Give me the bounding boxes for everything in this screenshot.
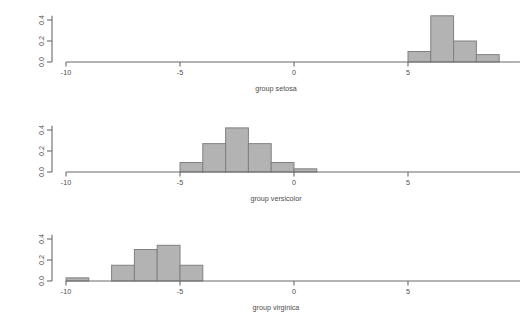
panel-plot-setosa: 0.40.20.0-10-505group setosa	[0, 0, 526, 110]
y-axis-tick-label-group: 0.4	[37, 15, 46, 25]
x-axis-tick-label: -10	[61, 178, 71, 187]
histogram-bar	[112, 265, 135, 281]
histogram-bar	[408, 51, 431, 61]
histogram-bar	[454, 41, 477, 62]
y-axis-tick-label-group: 0.4	[37, 125, 46, 135]
x-axis-tick-label: 5	[406, 178, 410, 187]
x-axis-tick-label: -10	[61, 288, 71, 297]
histogram-bar	[134, 250, 157, 281]
histogram-bar	[226, 127, 249, 171]
x-axis-tick-label: 0	[292, 178, 296, 187]
y-axis-tick-label-group: 0.0	[37, 276, 46, 286]
y-axis-tick-label-group: 0.2	[37, 255, 46, 265]
y-axis-tick-label: 0.0	[37, 57, 46, 67]
y-axis-tick-label-group: 0.2	[37, 146, 46, 156]
y-axis-tick-label: 0.2	[37, 36, 46, 46]
histogram-figure: 0.40.20.0-10-505group setosa0.40.20.0-10…	[0, 0, 526, 329]
x-axis-tick-label: -5	[177, 288, 183, 297]
histogram-panel-setosa: 0.40.20.0-10-505group setosa	[0, 0, 526, 110]
x-axis-tick-label: -5	[177, 68, 183, 77]
x-axis-title-setosa: group setosa	[255, 84, 297, 93]
y-axis-tick-label: 0.0	[37, 276, 46, 286]
histogram-bar	[271, 162, 294, 171]
y-axis-tick-label-group: 0.2	[37, 36, 46, 46]
histogram-bar	[180, 162, 203, 171]
y-axis-tick-label: 0.4	[37, 234, 46, 244]
histogram-bar	[248, 143, 271, 171]
x-axis-tick-label: 0	[292, 288, 296, 297]
x-axis-title-virginica: group virginica	[253, 303, 300, 312]
x-axis-tick-label: -5	[177, 178, 183, 187]
y-axis-tick-label: 0.4	[37, 15, 46, 25]
y-axis-tick-label-group: 0.0	[37, 167, 46, 177]
y-axis-tick-label: 0.2	[37, 146, 46, 156]
y-axis-tick-label: 0.0	[37, 167, 46, 177]
histogram-bar	[203, 143, 226, 171]
histogram-bar	[157, 245, 180, 281]
histogram-bar	[476, 55, 499, 62]
bars-group-versicolor	[180, 127, 317, 171]
y-axis-tick-label: 0.4	[37, 125, 46, 135]
y-axis-tick-label-group: 0.0	[37, 57, 46, 67]
y-axis-tick-label-group: 0.4	[37, 234, 46, 244]
histogram-bar	[180, 265, 203, 281]
panel-plot-versicolor: 0.40.20.0-10-505group versicolor	[0, 110, 526, 220]
histogram-bar	[431, 16, 454, 62]
bars-group-setosa	[408, 16, 499, 62]
x-axis-title-versicolor: group versicolor	[250, 194, 302, 203]
x-axis-tick-label: 0	[292, 68, 296, 77]
x-axis-tick-label: -10	[61, 68, 71, 77]
histogram-panel-versicolor: 0.40.20.0-10-505group versicolor	[0, 110, 526, 220]
histogram-panel-virginica: 0.40.20.0-10-505group virginica	[0, 219, 526, 329]
bars-group-virginica	[66, 245, 203, 281]
panel-plot-virginica: 0.40.20.0-10-505group virginica	[0, 219, 526, 329]
x-axis-tick-label: 5	[406, 68, 410, 77]
y-axis-tick-label: 0.2	[37, 255, 46, 265]
x-axis-tick-label: 5	[406, 288, 410, 297]
